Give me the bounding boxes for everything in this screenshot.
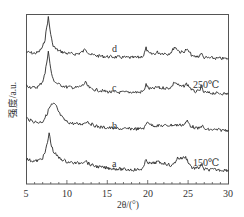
y-axis-title: 强度/a.u. (7, 82, 18, 118)
x-tick-label: 15 (102, 188, 112, 199)
x-tick-label: 10 (62, 188, 72, 199)
series-line-d (27, 16, 229, 59)
series-label-b: b (112, 120, 117, 131)
series-label-a: a (112, 158, 117, 169)
x-axis-ticks (27, 180, 229, 184)
series-line-b (27, 103, 229, 131)
x-tick-label: 5 (24, 188, 29, 199)
xrd-chart: 5 10 15 20 25 30 2θ/(°) 强度/a.u. d c 250℃… (0, 0, 244, 217)
series-label-d: d (112, 43, 117, 54)
series-label-c: c (112, 82, 117, 93)
x-tick-label: 20 (143, 188, 153, 199)
annotation-250c: 250℃ (193, 79, 219, 90)
x-axis-title: 2θ/(°) (117, 200, 139, 211)
x-tick-label: 25 (183, 188, 193, 199)
series-lines (27, 16, 229, 171)
x-tick-label: 30 (223, 188, 233, 199)
annotation-150c: 150℃ (193, 157, 219, 168)
